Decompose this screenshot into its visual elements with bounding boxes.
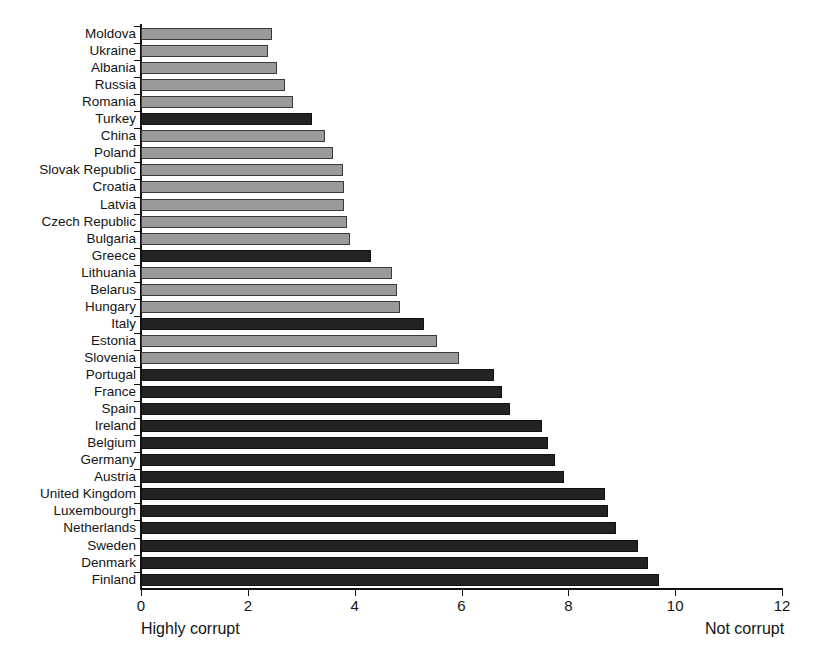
category-label-germany: Germany [0, 453, 136, 466]
bar-fill [141, 574, 659, 586]
bar-fill [141, 301, 400, 313]
bar-fill [141, 540, 638, 552]
axis-caption-highly-corrupt: Highly corrupt [141, 620, 240, 638]
bar-fill [141, 522, 616, 534]
category-label-italy: Italy [0, 317, 136, 330]
y-axis-tick [134, 111, 141, 112]
corruption-perception-bar-chart: MoldovaUkraineAlbaniaRussiaRomaniaTurkey… [0, 0, 821, 658]
bar-fill [141, 79, 285, 91]
y-axis-tick [134, 316, 141, 317]
category-label-greece: Greece [0, 249, 136, 262]
category-label-lithuania: Lithuania [0, 266, 136, 279]
bar-fill [141, 28, 272, 40]
bar-fill [141, 420, 542, 432]
y-axis-tick [134, 265, 141, 266]
category-label-finland: Finland [0, 573, 136, 586]
bar-fill [141, 471, 564, 483]
x-axis-tick-label-4: 4 [335, 598, 375, 614]
category-label-hungary: Hungary [0, 300, 136, 313]
x-axis-tick-label-8: 8 [548, 598, 588, 614]
bar-fill [141, 164, 343, 176]
y-axis-tick [134, 248, 141, 249]
y-axis-tick [134, 367, 141, 368]
category-label-slovenia: Slovenia [0, 351, 136, 364]
y-axis-tick [134, 486, 141, 487]
bar-fill [141, 284, 397, 296]
y-axis-tick [134, 231, 141, 232]
bar-fill [141, 488, 605, 500]
x-axis-tick-label-10: 10 [655, 598, 695, 614]
y-axis-tick [134, 333, 141, 334]
y-axis-tick [134, 503, 141, 504]
bar-fill [141, 267, 392, 279]
x-axis-tick-label-0: 0 [121, 598, 161, 614]
y-axis-tick [134, 214, 141, 215]
category-label-united-kingdom: United Kingdom [0, 487, 136, 500]
x-axis-tick-label-6: 6 [442, 598, 482, 614]
y-axis-tick [134, 538, 141, 539]
x-axis-tick-2 [248, 589, 249, 596]
y-axis-tick [134, 299, 141, 300]
bar-fill [141, 352, 459, 364]
category-label-poland: Poland [0, 146, 136, 159]
category-label-belarus: Belarus [0, 283, 136, 296]
category-label-belgium: Belgium [0, 436, 136, 449]
bar-fill [141, 199, 344, 211]
bar-fill [141, 45, 268, 57]
y-axis-tick [134, 401, 141, 402]
bar-fill [141, 335, 437, 347]
category-label-romania: Romania [0, 95, 136, 108]
x-axis-tick-label-12: 12 [762, 598, 802, 614]
category-label-denmark: Denmark [0, 556, 136, 569]
y-axis-tick [134, 197, 141, 198]
x-axis-tick-label-2: 2 [228, 598, 268, 614]
bar-fill [141, 557, 648, 569]
x-axis-tick-12 [782, 589, 783, 596]
y-axis-tick [134, 145, 141, 146]
category-axis-labels: MoldovaUkraineAlbaniaRussiaRomaniaTurkey… [0, 25, 136, 588]
category-label-turkey: Turkey [0, 112, 136, 125]
bar-fill [141, 454, 555, 466]
bar-fill [141, 181, 344, 193]
y-axis-tick [134, 60, 141, 61]
bar-fill [141, 62, 277, 74]
bar-fill [141, 113, 312, 125]
bar-fill [141, 147, 333, 159]
bar-fill [141, 130, 325, 142]
bar-fill [141, 505, 608, 517]
y-axis-tick [134, 179, 141, 180]
category-label-ukraine: Ukraine [0, 44, 136, 57]
category-label-bulgaria: Bulgaria [0, 232, 136, 245]
bar-fill [141, 318, 424, 330]
bar-fill [141, 216, 347, 228]
category-label-slovak-republic: Slovak Republic [0, 163, 136, 176]
x-axis-tick-6 [462, 589, 463, 596]
x-axis-tick-8 [568, 589, 569, 596]
y-axis-tick [134, 452, 141, 453]
category-label-croatia: Croatia [0, 180, 136, 193]
y-axis-tick [134, 572, 141, 573]
y-axis-tick [134, 384, 141, 385]
bar-fill [141, 386, 502, 398]
category-label-austria: Austria [0, 470, 136, 483]
bar-fill [141, 437, 548, 449]
bar-fill [141, 369, 494, 381]
category-label-france: France [0, 385, 136, 398]
y-axis-tick [134, 435, 141, 436]
category-label-china: China [0, 129, 136, 142]
category-label-latvia: Latvia [0, 198, 136, 211]
x-axis-tick-10 [675, 589, 676, 596]
category-label-portugal: Portugal [0, 368, 136, 381]
y-axis-tick [134, 128, 141, 129]
y-axis-tick [134, 350, 141, 351]
y-axis-tick [134, 162, 141, 163]
bar-fill [141, 96, 293, 108]
y-axis-tick [134, 282, 141, 283]
category-label-spain: Spain [0, 402, 136, 415]
bar-fill [141, 250, 371, 262]
y-axis-tick [134, 469, 141, 470]
category-label-russia: Russia [0, 78, 136, 91]
y-axis-tick [134, 520, 141, 521]
category-label-moldova: Moldova [0, 27, 136, 40]
y-axis-tick [134, 77, 141, 78]
